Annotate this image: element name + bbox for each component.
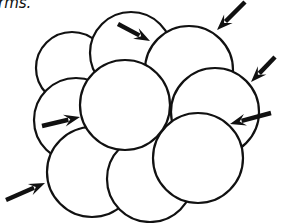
circle-right-lower (153, 113, 243, 203)
circle-cluster-diagram (0, 0, 285, 223)
arrow-right-upper-icon (251, 57, 275, 82)
arrow-top-right-icon (217, 2, 245, 30)
arrow-bottom-left-icon (6, 183, 45, 200)
circle-center (80, 60, 170, 150)
